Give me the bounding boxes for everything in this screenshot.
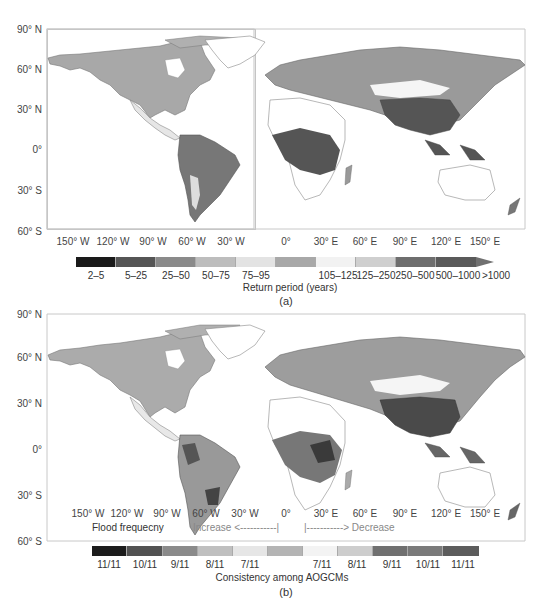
colorbar-label: 105–125 — [319, 270, 358, 281]
x-tick: 150° E — [470, 236, 500, 247]
colorbar-label: >1000 — [482, 270, 510, 281]
colorbar-seg — [408, 546, 443, 556]
x-tick: 30° E — [314, 236, 339, 247]
x-tick: 90° W — [153, 508, 180, 519]
colorbar-label: 500–1000 — [436, 270, 481, 281]
colorbar-label: 75–95 — [242, 270, 270, 281]
colorbar-label: 7/11 — [241, 559, 260, 570]
x-tick: 90° E — [393, 508, 418, 519]
colorbar-label: 50–75 — [202, 270, 230, 281]
colorbar-label: 250–500 — [396, 270, 435, 281]
colorbar-seg — [436, 257, 476, 267]
colorbar-b — [92, 546, 479, 556]
x-tick: 60° E — [353, 236, 378, 247]
x-tick: 0° — [281, 508, 291, 519]
x-tick: 150° W — [57, 236, 90, 247]
colorbar-seg — [156, 257, 196, 267]
colorbar-label: 9/11 — [383, 559, 402, 570]
colorbar-seg — [356, 257, 396, 267]
colorbar-seg — [338, 546, 373, 556]
colorbar-label: 2–5 — [88, 270, 105, 281]
colorbar-arrow — [476, 257, 494, 267]
x-tick: 120° E — [431, 236, 461, 247]
colorbar-label: 11/11 — [97, 559, 121, 570]
colorbar-label: 10/11 — [416, 559, 440, 570]
colorbar-label: 5–25 — [125, 270, 147, 281]
colorbar-label: 9/11 — [171, 559, 190, 570]
colorbar-label: 10/11 — [133, 559, 157, 570]
x-tick: 60° W — [192, 508, 219, 519]
colorbar-seg — [163, 546, 198, 556]
colorbar-seg — [316, 257, 356, 267]
colorbar-seg — [373, 546, 408, 556]
colorbar-seg — [303, 546, 338, 556]
x-tick: 60° E — [353, 508, 378, 519]
x-tick: 60° W — [178, 236, 205, 247]
colorbar-label: 11/11 — [451, 559, 475, 570]
x-tick: 30° E — [314, 508, 339, 519]
colorbar-seg — [268, 546, 303, 556]
colorbar-label: 125–250 — [357, 270, 396, 281]
colorbar-seg — [443, 546, 479, 556]
x-tick: 150° E — [470, 508, 500, 519]
colorbar-label: 8/11 — [348, 559, 367, 570]
colorbar-seg — [116, 257, 156, 267]
x-tick: 90° E — [393, 236, 418, 247]
colorbar-label: 25–50 — [162, 270, 190, 281]
colorbar-seg — [198, 546, 233, 556]
x-tick: 120° E — [431, 508, 461, 519]
colorbar-seg — [127, 546, 163, 556]
colorbar-seg — [76, 257, 116, 267]
x-tick: 120° W — [111, 508, 144, 519]
x-tick: 90° W — [139, 236, 166, 247]
colorbar-a — [76, 257, 494, 267]
colorbar-title: Return period (years) — [243, 282, 337, 293]
x-tick: 150° W — [72, 508, 105, 519]
increase-label: Increase <-----------| — [193, 522, 279, 533]
x-tick: 0° — [281, 236, 291, 247]
panel-a: 90° N 60° N 30° N 0° 30° S 60° S — [0, 0, 543, 305]
legend-title: Flood frequecny — [92, 522, 164, 533]
colorbar-seg — [236, 257, 276, 267]
colorbar-seg — [233, 546, 268, 556]
colorbar-label: 7/11 — [313, 559, 332, 570]
x-tick: 30° W — [231, 508, 258, 519]
colorbar-seg — [396, 257, 436, 267]
colorbar-seg — [196, 257, 236, 267]
panel-label: (b) — [279, 586, 292, 598]
colorbar-label: 8/11 — [206, 559, 225, 570]
x-tick: 120° W — [97, 236, 130, 247]
colorbar-title: Consistency among AOGCMs — [216, 572, 349, 583]
colorbar-seg — [276, 257, 316, 267]
decrease-label: |-----------> Decrease — [304, 522, 395, 533]
colorbar-seg — [92, 546, 127, 556]
x-tick: 30° W — [217, 236, 244, 247]
panel-b: 90° N 60° N 30° N 0° 30° S 60° S 150° W … — [0, 305, 543, 611]
